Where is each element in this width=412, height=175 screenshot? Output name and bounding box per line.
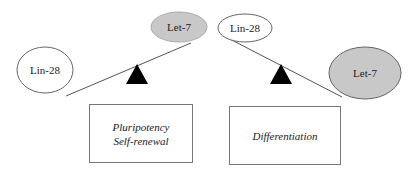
right-lin28-label: Lin-28 — [230, 22, 260, 34]
right-let7-label: Let-7 — [353, 67, 377, 79]
diagram-canvas — [0, 0, 412, 175]
right-outcome-box: Differentiation — [229, 106, 341, 165]
left-lin28-label: Lin-28 — [30, 64, 60, 76]
left-balance-beam — [66, 43, 191, 96]
left-outcome-box: Pluripotency Self-renewal — [89, 104, 193, 163]
right-outcome-line1: Differentiation — [253, 129, 318, 143]
right-balance-beam — [224, 36, 342, 97]
right-fulcrum-icon — [270, 64, 292, 84]
left-fulcrum-icon — [126, 64, 148, 84]
left-outcome-line2: Self-renewal — [113, 134, 170, 148]
left-outcome-line1: Pluripotency — [113, 120, 170, 134]
left-let7-label: Let-7 — [167, 21, 191, 33]
